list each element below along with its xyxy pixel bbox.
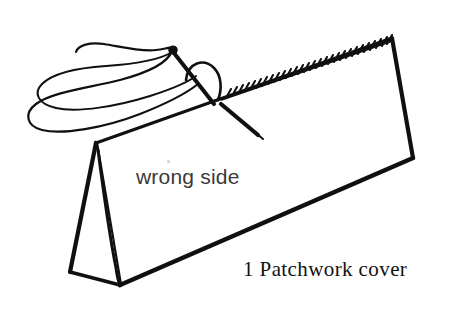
thread-arc-over-edge <box>186 63 221 100</box>
figure-caption: 1 Patchwork cover <box>243 259 407 280</box>
illustration-canvas: wrong side 1 Patchwork cover <box>0 0 469 314</box>
scan-speck <box>167 160 170 163</box>
fabric-panel <box>96 38 413 285</box>
fabric-side-label: wrong side <box>136 166 240 187</box>
